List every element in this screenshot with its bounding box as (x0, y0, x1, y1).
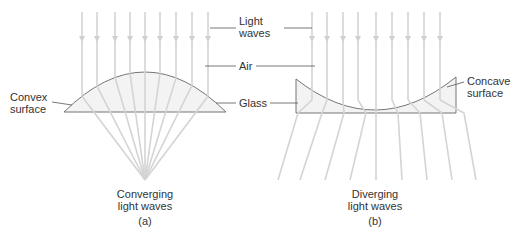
label-glass: Glass (239, 97, 267, 109)
label-light-waves-line2: waves (239, 27, 270, 39)
arrow-down-icon (79, 36, 85, 42)
label-converging: Converging light waves (a) (105, 188, 185, 227)
label-light-waves-line1: Light (239, 15, 270, 27)
label-convex-line2: surface (10, 103, 47, 115)
arrow-down-icon (340, 36, 346, 42)
arrow-down-icon (309, 36, 315, 42)
arrow-down-icon (94, 36, 100, 42)
label-concave-surface: Concave surface (467, 75, 510, 99)
label-converging-line1: Converging (105, 188, 185, 200)
arrow-down-icon (189, 36, 195, 42)
arrow-down-icon (355, 36, 361, 42)
arrow-down-icon (389, 36, 395, 42)
arrow-down-icon (324, 36, 330, 42)
arrow-down-icon (421, 36, 427, 42)
label-convex-line1: Convex (10, 91, 47, 103)
arrow-down-icon (405, 36, 411, 42)
arrow-down-icon (157, 36, 163, 42)
panel-a-convex (64, 12, 226, 180)
label-diverging-line2: light waves (335, 200, 415, 212)
label-convex-surface: Convex surface (10, 91, 47, 115)
caption-a: (a) (105, 215, 185, 227)
light-ray (464, 113, 476, 180)
light-ray (398, 113, 402, 180)
light-ray (278, 113, 298, 180)
panel-b-concave (278, 12, 476, 180)
label-air: Air (239, 60, 252, 72)
label-concave-line1: Concave (467, 75, 510, 87)
caption-b: (b) (335, 215, 415, 227)
arrow-down-icon (112, 36, 118, 42)
light-ray (350, 113, 366, 180)
arrow-down-icon (142, 36, 148, 42)
arrow-down-icon (437, 36, 443, 42)
arrow-down-icon (373, 36, 379, 42)
arrow-down-icon (205, 36, 211, 42)
light-ray (343, 100, 344, 113)
light-ray (442, 113, 452, 180)
light-ray (325, 113, 344, 180)
label-diverging-line1: Diverging (335, 188, 415, 200)
label-light-waves: Light waves (239, 15, 270, 39)
label-converging-line2: light waves (105, 200, 185, 212)
arrow-down-icon (173, 36, 179, 42)
label-concave-line2: surface (467, 87, 510, 99)
light-ray (300, 113, 322, 180)
label-diverging: Diverging light waves (b) (335, 188, 415, 227)
arrow-down-icon (127, 36, 133, 42)
light-ray (420, 113, 427, 180)
